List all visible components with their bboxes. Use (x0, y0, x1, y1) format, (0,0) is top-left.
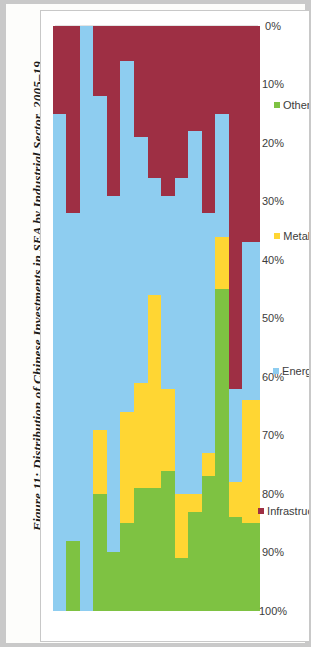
figure-page: Figure 11: Distribution of Chinese Inves… (0, 0, 311, 647)
value-tick-100pct: 100% (252, 604, 294, 618)
value-tick-20pct: 20% (252, 136, 294, 150)
chart-frame: 2005200620072008200920102011201220132014… (40, 10, 310, 642)
value-tick-70pct: 70% (252, 429, 294, 443)
paper-sheet: Figure 11: Distribution of Chinese Inves… (6, 4, 305, 643)
bar-segment-infrastructure[interactable] (242, 26, 260, 242)
legend-item-energy[interactable]: Energy (255, 364, 310, 378)
bar-segment-others[interactable] (242, 523, 260, 611)
chart-canvas: 2005200620072008200920102011201220132014… (41, 11, 309, 641)
value-tick-50pct: 50% (252, 312, 294, 326)
value-tick-30pct: 30% (252, 195, 294, 209)
value-tick-40pct: 40% (252, 253, 294, 267)
legend-swatch-icon (274, 102, 280, 108)
legend-label: Metals (283, 230, 310, 242)
legend-swatch-icon (274, 234, 280, 240)
legend-label: Others (283, 99, 310, 111)
value-tick-10pct: 10% (252, 78, 294, 92)
legend-swatch-icon (258, 509, 264, 515)
value-tick-0pct: 0% (252, 19, 294, 33)
legend-item-infrastructure[interactable]: Infrastructure (255, 504, 310, 518)
legend-swatch-icon (273, 368, 279, 374)
legend-item-others[interactable]: Others (255, 98, 310, 112)
legend-item-metals[interactable]: Metals (255, 229, 310, 243)
value-tick-80pct: 80% (252, 487, 294, 501)
legend-label: Infrastructure (267, 505, 310, 517)
legend-label: Energy (282, 365, 310, 377)
value-tick-90pct: 90% (252, 546, 294, 560)
